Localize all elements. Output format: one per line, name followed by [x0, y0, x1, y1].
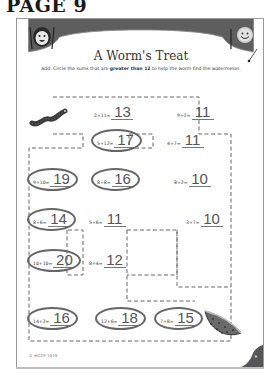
- answer-blank[interactable]: 10: [201, 212, 223, 227]
- equation-expr: 14+2=: [33, 319, 49, 326]
- answer-blank[interactable]: 12: [104, 253, 126, 268]
- equation-e8[interactable]: 8+6= 14: [33, 212, 70, 227]
- page-shadow: [16, 367, 264, 369]
- equation-expr: 8+2=: [174, 180, 188, 187]
- equation-expr: 2+11=: [94, 113, 110, 120]
- equation-e6[interactable]: 8+8= 16: [97, 172, 134, 187]
- equation-e14[interactable]: 12+6= 18: [101, 311, 140, 326]
- page-corner: [241, 345, 263, 367]
- answer-blank[interactable]: 13: [111, 105, 133, 120]
- equation-e9: 5+6= 11: [89, 212, 126, 227]
- answer-blank[interactable]: 15: [175, 311, 197, 326]
- answer-blank[interactable]: 18: [118, 311, 140, 326]
- equation-e11[interactable]: 10+10= 20: [33, 253, 75, 268]
- page-label: PAGE 9: [6, 0, 87, 16]
- equation-expr: 10+10=: [33, 261, 52, 268]
- worm-icon: [29, 107, 69, 129]
- equation-e13[interactable]: 14+2= 16: [33, 311, 72, 326]
- equation-e7: 8+2= 10: [174, 172, 211, 187]
- footer-code: © MCCP 7019: [29, 354, 58, 358]
- watermelon-icon: [203, 309, 245, 341]
- answer-blank[interactable]: 19: [50, 172, 72, 187]
- equation-e10: 3+7= 10: [186, 212, 223, 227]
- answer-blank[interactable]: 11: [104, 212, 126, 227]
- answer-blank[interactable]: 10: [189, 172, 211, 187]
- answer-blank[interactable]: 11: [182, 133, 204, 148]
- equation-expr: 7+8=: [160, 319, 174, 326]
- answer-blank[interactable]: 20: [53, 253, 75, 268]
- equation-expr: 5+12=: [97, 141, 113, 148]
- equation-e2: 9+2= 11: [177, 105, 214, 120]
- answer-blank[interactable]: 17: [114, 133, 136, 148]
- equation-expr: 8+8=: [97, 180, 111, 187]
- answer-blank[interactable]: 11: [192, 105, 214, 120]
- equation-expr: 12+6=: [101, 319, 117, 326]
- equation-e5[interactable]: 9+10= 19: [33, 172, 72, 187]
- worksheet: A Worm's Treat Add. Circle the sums that…: [16, 18, 264, 368]
- equation-expr: 9+10=: [33, 180, 49, 187]
- page-number: 9: [254, 354, 257, 359]
- equation-expr: 3+7=: [186, 220, 200, 227]
- equation-expr: 4+7=: [167, 141, 181, 148]
- answer-blank[interactable]: 16: [112, 172, 134, 187]
- equation-expr: 8+4=: [89, 261, 103, 268]
- equation-e1: 2+11= 13: [94, 105, 133, 120]
- answer-blank[interactable]: 14: [48, 212, 70, 227]
- equation-e4: 4+7= 11: [167, 133, 204, 148]
- answer-blank[interactable]: 16: [50, 311, 72, 326]
- equation-e12: 8+4= 12: [89, 253, 126, 268]
- equation-e15[interactable]: 7+8= 15: [160, 311, 197, 326]
- equation-expr: 9+2=: [177, 113, 191, 120]
- equation-expr: 8+6=: [33, 220, 47, 227]
- equation-expr: 5+6=: [89, 220, 103, 227]
- equation-e3[interactable]: 5+12= 17: [97, 133, 136, 148]
